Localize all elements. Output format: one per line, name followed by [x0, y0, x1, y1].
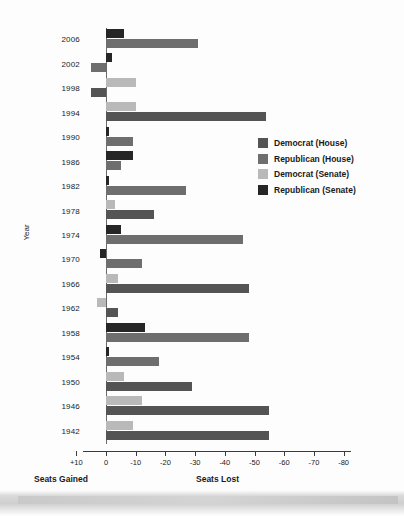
bar-1986-rep_house: [106, 161, 121, 170]
y-tick-label-2002: 2002: [40, 60, 80, 69]
bar-group-1966: [106, 273, 404, 297]
legend-swatch-icon-3: [258, 185, 268, 195]
bar-1990-rep_house: [106, 137, 133, 146]
x-tick-label-0: 0: [104, 458, 108, 467]
y-tick-label-1954: 1954: [40, 353, 80, 362]
bar-group-1974: [106, 224, 404, 248]
y-tick-label-1978: 1978: [40, 207, 80, 216]
legend: Democrat (House)Republican (House)Democr…: [258, 138, 356, 195]
bar-1966-dem_senate: [106, 274, 118, 283]
bar-1954-rep_senate: [106, 347, 109, 356]
x-tick-label-10: +10: [70, 458, 83, 467]
bar-group-1958: [106, 322, 404, 346]
y-tick-label-1962: 1962: [40, 304, 80, 313]
y-tick-label-1958: 1958: [40, 329, 80, 338]
y-tick-label-1982: 1982: [40, 182, 80, 191]
bar-1974-rep_house: [106, 235, 243, 244]
x-axis-line: [83, 451, 351, 452]
bar-1958-rep_senate: [106, 323, 145, 332]
bar-1942-dem_house: [106, 431, 269, 440]
bar-group-1962: [106, 297, 404, 321]
bar-group-1978: [106, 199, 404, 223]
bar-1946-dem_senate: [106, 396, 142, 405]
bar-1998-dem_house: [91, 88, 106, 97]
x-tick-label--60: -60: [279, 458, 290, 467]
bar-1986-rep_senate: [106, 151, 133, 160]
bar-2002-rep_house: [91, 63, 106, 72]
bar-1974-rep_senate: [106, 225, 121, 234]
bar-1950-dem_house: [106, 382, 192, 391]
x-tick-label--40: -40: [219, 458, 230, 467]
x-tick-label--80: -80: [338, 458, 349, 467]
bar-1958-rep_house: [106, 333, 249, 342]
caption-seats-gained: Seats Gained: [34, 474, 88, 484]
bar-1982-rep_senate: [106, 176, 109, 185]
bar-group-1946: [106, 395, 404, 419]
bar-1962-dem_house: [106, 308, 118, 317]
legend-swatch-icon-1: [258, 154, 268, 164]
bar-group-1990: [106, 126, 404, 150]
bar-1954-rep_house: [106, 357, 159, 366]
y-tick-label-1998: 1998: [40, 84, 80, 93]
bar-group-2006: [106, 28, 404, 52]
x-tick--30: [195, 451, 196, 456]
x-tick--40: [225, 451, 226, 456]
band-highlight: [18, 496, 398, 504]
bar-group-1954: [106, 346, 404, 370]
legend-label-2: Democrat (Senate): [274, 169, 349, 179]
bar-group-1982: [106, 175, 404, 199]
bar-2006-rep_house: [106, 39, 198, 48]
bar-1978-dem_house: [106, 210, 154, 219]
bar-group-1950: [106, 371, 404, 395]
y-tick-label-1986: 1986: [40, 158, 80, 167]
x-tick-label--10: -10: [130, 458, 141, 467]
bar-2002-rep_senate: [106, 53, 112, 62]
y-tick-label-1990: 1990: [40, 133, 80, 142]
x-tick--20: [165, 451, 166, 456]
y-axis-title: Year: [22, 203, 31, 263]
y-tick-label-1994: 1994: [40, 109, 80, 118]
x-tick-label--50: -50: [249, 458, 260, 467]
y-tick-label-1946: 1946: [40, 402, 80, 411]
x-tick-label--20: -20: [160, 458, 171, 467]
y-tick-label-1966: 1966: [40, 280, 80, 289]
legend-item-2: Democrat (Senate): [258, 169, 356, 179]
bar-group-1994: [106, 101, 404, 125]
bar-1950-dem_senate: [106, 372, 124, 381]
plot-area: [106, 28, 351, 444]
x-tick-label--70: -70: [308, 458, 319, 467]
x-tick--70: [314, 451, 315, 456]
page-bottom-band: [0, 490, 404, 516]
bar-1994-dem_senate: [106, 102, 136, 111]
legend-item-3: Republican (Senate): [258, 185, 356, 195]
bar-1942-dem_senate: [106, 421, 133, 430]
legend-label-1: Republican (House): [274, 154, 354, 164]
x-tick-0: [106, 451, 107, 456]
legend-item-1: Republican (House): [258, 154, 356, 164]
y-tick-label-1942: 1942: [40, 427, 80, 436]
bar-1982-rep_house: [106, 186, 186, 195]
bar-1966-dem_house: [106, 284, 249, 293]
legend-swatch-icon-0: [258, 138, 268, 148]
bar-chart: Year 20062002199819941990198619821978197…: [0, 0, 404, 516]
legend-label-0: Democrat (House): [274, 138, 347, 148]
legend-item-0: Democrat (House): [258, 138, 356, 148]
x-tick-10: [76, 451, 77, 456]
bar-1970-rep_house: [106, 259, 142, 268]
y-tick-label-2006: 2006: [40, 35, 80, 44]
bar-1978-dem_senate: [106, 200, 115, 209]
bar-group-1986: [106, 150, 404, 174]
bar-1962-dem_senate: [97, 298, 106, 307]
bar-group-1970: [106, 248, 404, 272]
x-tick--50: [255, 451, 256, 456]
bar-group-2002: [106, 52, 404, 76]
y-tick-label-1974: 1974: [40, 231, 80, 240]
bar-group-1998: [106, 77, 404, 101]
bar-group-1942: [106, 420, 404, 444]
bar-1946-dem_house: [106, 406, 269, 415]
legend-label-3: Republican (Senate): [274, 185, 356, 195]
bar-1970-rep_senate: [100, 249, 106, 258]
bar-2006-rep_senate: [106, 29, 124, 38]
caption-seats-lost: Seats Lost: [196, 474, 239, 484]
bar-1998-dem_senate: [106, 78, 136, 87]
